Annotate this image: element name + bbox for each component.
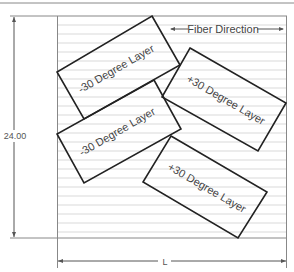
layer-minus30-top: -30 Degree Layer bbox=[57, 16, 180, 119]
length-label: L bbox=[162, 257, 167, 267]
layer-label: +30 Degree Layer bbox=[166, 160, 249, 215]
layer-plus30-top: +30 Degree Layer bbox=[162, 48, 286, 151]
length-dimension: L bbox=[58, 238, 287, 268]
layer-label: +30 Degree Layer bbox=[185, 72, 268, 127]
fiber-direction-label: Fiber Direction bbox=[187, 23, 259, 35]
fiber-layup-diagram: Fiber Direction -30 Degree Layer -30 Deg… bbox=[0, 0, 294, 272]
height-label: 24.00 bbox=[4, 131, 27, 141]
height-dimension: 24.00 bbox=[4, 16, 57, 238]
